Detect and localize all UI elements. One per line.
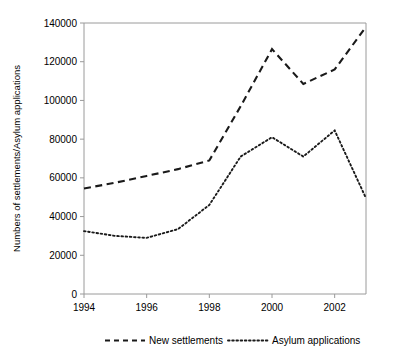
y-tick-label: 120000 <box>44 56 78 67</box>
y-tick-label: 100000 <box>44 95 78 106</box>
legend-label-new-settlements: New settlements <box>149 335 223 346</box>
legend-item-asylum-applications: Asylum applications <box>228 335 360 346</box>
y-tick-label: 140000 <box>44 18 78 29</box>
x-tick-label: 2000 <box>261 302 284 313</box>
legend-label-asylum-applications: Asylum applications <box>272 335 360 346</box>
y-tick-label: 0 <box>71 289 77 300</box>
line-chart: 0200004000060000800001000001200001400001… <box>0 0 400 362</box>
x-tick-label: 1998 <box>198 302 221 313</box>
x-tick-label: 1994 <box>73 302 96 313</box>
legend-item-new-settlements: New settlements <box>105 335 223 346</box>
y-axis-title: Numbers of settlements/Asylum applicatio… <box>11 65 22 252</box>
x-tick-label: 2002 <box>324 302 347 313</box>
y-tick-label: 80000 <box>49 134 77 145</box>
x-tick-label: 1996 <box>136 302 159 313</box>
y-tick-label: 40000 <box>49 211 77 222</box>
y-tick-label: 20000 <box>49 250 77 261</box>
series-line-asylum-applications <box>84 130 366 237</box>
y-tick-label: 60000 <box>49 172 77 183</box>
series-line-new-settlements <box>84 27 366 189</box>
chart-figure: 0200004000060000800001000001200001400001… <box>0 0 400 362</box>
